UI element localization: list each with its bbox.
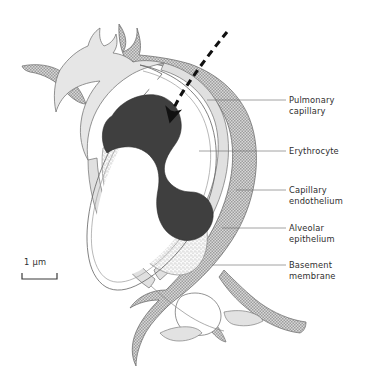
scale-bar: 1 μm [22,257,57,279]
label-erythrocyte-line1: Erythrocyte [289,146,339,156]
label-alveolar-epithelium-line2: epithelium [289,234,335,244]
label-pulmonary-capillary-line2: capillary [289,106,326,116]
scale-bar-label: 1 μm [24,257,46,267]
label-capillary-endothelium-line2: endothelium [289,196,343,206]
label-capillary-endothelium-line1: Capillary [289,185,327,195]
pulmonary-capillary-diagram: Pulmonary capillary Erythrocyte Capillar… [0,0,368,383]
figure-root: Pulmonary capillary Erythrocyte Capillar… [0,0,368,383]
label-group: Pulmonary capillary Erythrocyte Capillar… [289,95,343,281]
label-basement-membrane-line1: Basement [289,260,333,270]
label-pulmonary-capillary-line1: Pulmonary [289,95,335,105]
junction-fill-left [160,327,202,341]
scale-bar-bracket [22,273,57,279]
label-alveolar-epithelium-line1: Alveolar [289,223,325,233]
label-basement-membrane-line2: membrane [289,271,336,281]
